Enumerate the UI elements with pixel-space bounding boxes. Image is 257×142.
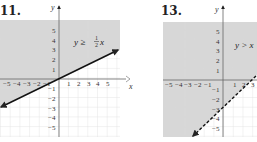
svg-text:−3: −3: [212, 106, 220, 114]
svg-text:−3: −3: [184, 81, 192, 89]
svg-text:5: 5: [106, 80, 110, 88]
svg-text:3: 3: [216, 47, 220, 55]
svg-text:1: 1: [216, 67, 220, 75]
graph-11: 11. x y −5−4−3−2−1 12345 54321 −1−2−3−4−…: [0, 3, 133, 137]
svg-text:x: x: [99, 37, 104, 47]
svg-text:2: 2: [216, 57, 220, 65]
x-tick-labels: −5−4−3−2−1 123: [165, 81, 255, 89]
svg-text:−4: −4: [13, 80, 21, 88]
svg-text:2: 2: [95, 42, 98, 48]
svg-text:1: 1: [67, 80, 71, 88]
figure-canvas: 11. x y −5−4−3−2−1 12345 54321 −1−2−3−4−…: [0, 0, 257, 142]
svg-text:4: 4: [216, 38, 220, 46]
svg-text:−3: −3: [48, 105, 56, 113]
graph-13: 13. y −5−4−3−2−1 123 54321 −1−2−3−4−5 y …: [161, 4, 257, 137]
svg-text:1: 1: [52, 66, 56, 74]
svg-text:−1: −1: [204, 81, 212, 89]
svg-text:4: 4: [52, 37, 56, 45]
svg-text:1: 1: [233, 81, 237, 89]
svg-text:−4: −4: [212, 115, 220, 123]
svg-text:3: 3: [87, 80, 91, 88]
svg-text:−1: −1: [212, 86, 220, 94]
svg-text:−5: −5: [3, 80, 11, 88]
svg-text:−5: −5: [165, 81, 173, 89]
x-axis-label: x: [128, 82, 133, 91]
svg-text:−4: −4: [175, 81, 183, 89]
svg-text:−2: −2: [212, 96, 220, 104]
svg-text:−4: −4: [48, 114, 56, 122]
inequality-label: y > x: [234, 40, 254, 50]
problem-number: 11.: [0, 4, 21, 18]
svg-text:5: 5: [52, 27, 56, 35]
svg-text:4: 4: [96, 80, 100, 88]
svg-text:3: 3: [251, 81, 255, 89]
svg-text:1: 1: [95, 35, 98, 41]
svg-text:3: 3: [52, 46, 56, 54]
y-axis-label: y: [50, 3, 55, 12]
svg-text:2: 2: [77, 80, 81, 88]
svg-text:2: 2: [52, 56, 56, 64]
svg-text:−2: −2: [33, 80, 41, 88]
svg-text:−2: −2: [48, 95, 56, 103]
problem-number: 13.: [161, 4, 182, 18]
svg-text:−2: −2: [194, 81, 202, 89]
svg-text:−1: −1: [48, 85, 56, 93]
svg-text:−5: −5: [48, 124, 56, 132]
svg-text:5: 5: [216, 28, 220, 36]
y-axis-label: y: [214, 5, 219, 14]
svg-text:−5: −5: [212, 125, 220, 133]
svg-text:y ≥: y ≥: [73, 37, 85, 47]
svg-text:−3: −3: [23, 80, 31, 88]
